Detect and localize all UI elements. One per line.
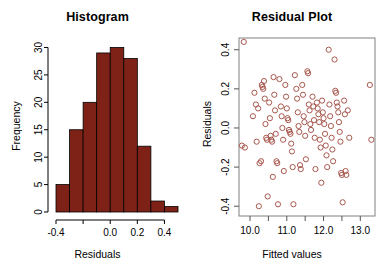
scatter-point [296, 123, 301, 128]
scatter-point [342, 98, 347, 103]
scatter-point [294, 96, 299, 101]
scatter-point [254, 139, 259, 144]
histogram-bar [83, 102, 97, 212]
scatter-point [324, 153, 329, 158]
scatter-point [262, 96, 267, 101]
scatter-point [300, 82, 305, 87]
scatter-point [322, 131, 327, 136]
scatter-point [317, 120, 322, 125]
scatter-point [319, 180, 324, 185]
scatter-point [321, 116, 326, 121]
histogram-y-axis: 051015202530 [33, 41, 48, 214]
residual-plot-x-tick-label: 10.0 [240, 225, 260, 236]
residual-plot-y-tick-label: -0.4 [220, 197, 231, 215]
histogram-x-axis-title: Residuals [0, 248, 195, 260]
scatter-point [312, 135, 317, 140]
histogram-y-tick-label: 10 [33, 151, 44, 163]
scatter-point [323, 143, 328, 148]
scatter-point [330, 147, 335, 152]
scatter-point [290, 164, 295, 169]
scatter-point [250, 114, 255, 119]
scatter-point [294, 86, 299, 91]
scatter-point [338, 139, 343, 144]
scatter-point [281, 137, 286, 142]
scatter-point [303, 157, 308, 162]
residual-plot-x-axis-title: Fitted values [195, 248, 389, 260]
scatter-point [308, 127, 313, 132]
residual-plot-y-tick-label: -0.2 [220, 158, 231, 176]
scatter-point [322, 121, 327, 126]
scatter-point [310, 94, 315, 99]
histogram-y-tick-label: 0 [33, 209, 44, 215]
scatter-point [272, 108, 277, 113]
residual-plot-y-tick-label: 0.2 [220, 81, 231, 95]
scatter-point [277, 76, 282, 81]
histogram-plot-area: 051015202530-0.40.00.20.4 [0, 0, 195, 270]
histogram-y-tick-label: 25 [33, 69, 44, 81]
histogram-x-axis: -0.40.00.20.4 [47, 220, 171, 238]
scatter-point [283, 82, 288, 87]
residual-plot-points [239, 39, 374, 209]
scatter-point [297, 129, 302, 134]
scatter-point [325, 164, 330, 169]
scatter-point [317, 137, 322, 142]
histogram-y-tick-label: 30 [33, 41, 44, 53]
scatter-point [241, 39, 246, 44]
scatter-point [336, 110, 341, 115]
residual-plot-x-tick-label: 13.0 [351, 225, 371, 236]
residual-plot-x-tick-label: 12.0 [314, 225, 334, 236]
scatter-point [292, 73, 297, 78]
scatter-point [315, 106, 320, 111]
residual-plot-box [239, 38, 375, 216]
scatter-point [332, 57, 337, 62]
scatter-point [256, 204, 261, 209]
residual-plot-y-axis: -0.4-0.20.00.20.4 [220, 42, 239, 214]
histogram-title: Histogram [0, 10, 195, 24]
scatter-point [311, 118, 316, 123]
scatter-point [320, 110, 325, 115]
scatter-point [329, 135, 334, 140]
scatter-point [336, 120, 341, 125]
scatter-point [314, 100, 319, 105]
histogram-bar [70, 130, 84, 212]
residual-plot-y-tick-label: 0.0 [220, 121, 231, 135]
scatter-point [313, 166, 318, 171]
figure-container: Histogram 051015202530-0.40.00.20.4 Resi… [0, 0, 389, 270]
residual-plot-y-tick-label: 0.4 [220, 42, 231, 56]
scatter-point [301, 114, 306, 119]
scatter-point [330, 159, 335, 164]
scatter-point [326, 47, 331, 52]
histogram-bar [110, 47, 124, 212]
scatter-point [327, 102, 332, 107]
histogram-bar [151, 201, 165, 212]
scatter-point [283, 94, 288, 99]
scatter-point [291, 202, 296, 207]
histogram-x-tick-label: 0.2 [130, 227, 144, 238]
scatter-point [345, 108, 350, 113]
scatter-point [302, 120, 307, 125]
scatter-point [267, 116, 272, 121]
residual-plot-x-tick-label: 11.0 [277, 225, 296, 236]
histogram-bar [164, 207, 178, 212]
scatter-point [328, 114, 333, 119]
scatter-point [270, 174, 275, 179]
scatter-point [289, 141, 294, 146]
residual-plot-title: Residual Plot [195, 10, 389, 24]
histogram-bar [137, 146, 151, 212]
scatter-point [319, 98, 324, 103]
scatter-point [281, 168, 286, 173]
scatter-point [289, 149, 294, 154]
scatter-point [252, 90, 257, 95]
scatter-point [284, 106, 289, 111]
scatter-point [369, 137, 374, 142]
scatter-point [267, 100, 272, 105]
scatter-point [273, 131, 278, 136]
scatter-point [318, 145, 323, 150]
histogram-y-tick-label: 5 [33, 181, 44, 187]
scatter-point [279, 114, 284, 119]
histogram-bars [56, 47, 178, 212]
scatter-point [272, 92, 277, 97]
scatter-point [271, 75, 276, 80]
scatter-point [265, 194, 270, 199]
histogram-x-tick-label: -0.4 [47, 227, 65, 238]
